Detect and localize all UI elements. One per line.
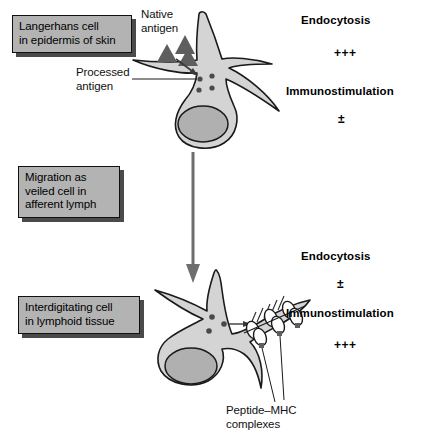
stage-label-migration: Migration as veiled cell in afferent lym… [18,166,120,218]
dot-icon [209,85,214,90]
diagram-artwork [0,0,443,443]
annotation-native-antigen: Native antigen [141,8,205,35]
bottom-endocytosis-value: ± [337,277,344,291]
migration-arrow-icon [186,152,200,283]
bottom-immunostimulation-label: Immunostimulation [286,307,394,319]
top-endocytosis-value: +++ [334,46,357,60]
triangle-icon [157,44,177,62]
dot-icon [206,328,212,334]
stage-label-langerhans: Langerhans cell in epidermis of skin [12,15,132,53]
interdigitating-cell-figure [155,270,310,402]
top-immunostimulation-value: ± [338,112,345,126]
dot-icon [221,321,227,327]
interdigitating-cell-nucleus [165,348,217,384]
peptide-mhc-leader-lines [262,336,284,402]
langerhans-cell-nucleus [178,106,228,142]
top-endocytosis-label: Endocytosis [301,14,370,26]
stage-label-interdigitating: Interdigitating cell in lymphoid tissue [18,296,140,334]
dot-icon [209,314,215,320]
annotation-processed-antigen: Processed antigen [76,66,166,93]
annotation-peptide-mhc: Peptide–MHC complexes [226,404,336,431]
bottom-immunostimulation-value: +++ [334,338,357,352]
dot-icon [197,76,202,81]
dot-icon [209,73,214,78]
top-immunostimulation-label: Immunostimulation [286,85,394,97]
dot-icon [196,87,201,92]
diagram-canvas: Langerhans cell in epidermis of skin Mig… [0,0,443,443]
triangle-icon [175,35,195,54]
bottom-endocytosis-label: Endocytosis [301,250,370,262]
